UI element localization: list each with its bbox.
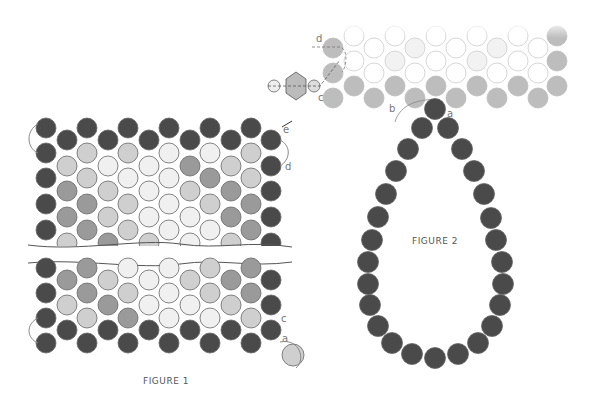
bead	[139, 320, 159, 340]
bead	[368, 207, 389, 228]
bead	[241, 220, 261, 240]
bead	[376, 184, 397, 205]
bead	[368, 316, 389, 337]
bead	[180, 156, 200, 176]
bead	[180, 270, 200, 290]
bead	[241, 194, 261, 214]
bead	[77, 168, 97, 188]
bead	[159, 308, 179, 328]
bead	[36, 258, 56, 278]
bead	[57, 320, 77, 340]
path-label: e	[283, 124, 289, 135]
bead	[98, 156, 118, 176]
bead	[36, 333, 56, 353]
bead	[118, 168, 138, 188]
bead	[482, 316, 503, 337]
bead	[159, 283, 179, 303]
bead	[481, 208, 502, 229]
bead	[446, 88, 466, 108]
bead	[139, 207, 159, 227]
bead	[57, 207, 77, 227]
bead	[77, 308, 97, 328]
bead	[36, 194, 56, 214]
bead	[241, 258, 261, 278]
bead	[98, 295, 118, 315]
path-label: a	[282, 333, 288, 344]
bead	[159, 118, 179, 138]
path-label: d	[285, 161, 291, 172]
bead	[159, 258, 179, 278]
bead	[360, 295, 381, 316]
bead	[98, 181, 118, 201]
bead	[221, 295, 241, 315]
bead	[77, 194, 97, 214]
bead	[323, 88, 343, 108]
bead	[36, 308, 56, 328]
bead	[180, 181, 200, 201]
bead	[425, 348, 446, 369]
bead	[200, 283, 220, 303]
bead	[221, 181, 241, 201]
bead	[547, 76, 567, 96]
bead	[362, 230, 383, 251]
bead	[474, 184, 495, 205]
bead	[200, 168, 220, 188]
bead	[77, 333, 97, 353]
bead	[438, 118, 459, 139]
bead	[139, 295, 159, 315]
path-label: d	[316, 33, 322, 44]
bead	[241, 333, 261, 353]
bead	[200, 258, 220, 278]
bead	[118, 258, 138, 278]
bead	[200, 118, 220, 138]
bead	[467, 76, 487, 96]
bead	[261, 295, 281, 315]
bead	[118, 283, 138, 303]
bead	[36, 118, 56, 138]
figure-1: edca	[20, 118, 304, 368]
bead	[118, 333, 138, 353]
bead	[139, 181, 159, 201]
bead	[221, 320, 241, 340]
figure-1-caption: FIGURE 1	[143, 376, 189, 386]
bead	[386, 161, 407, 182]
bead	[528, 88, 548, 108]
bead	[241, 118, 261, 138]
bead	[358, 252, 379, 273]
bead	[139, 156, 159, 176]
bead	[36, 220, 56, 240]
bead	[77, 118, 97, 138]
bead	[490, 295, 511, 316]
bead	[36, 143, 56, 163]
bead	[241, 168, 261, 188]
path-label: c	[318, 92, 324, 103]
bead	[200, 220, 220, 240]
bead	[468, 333, 489, 354]
bead	[221, 130, 241, 150]
bead	[241, 143, 261, 163]
figure-2: dcba	[268, 20, 570, 369]
bead	[261, 320, 281, 340]
bead	[57, 270, 77, 290]
bead	[398, 139, 419, 160]
bead	[221, 207, 241, 227]
bead	[118, 118, 138, 138]
bead	[159, 220, 179, 240]
bead	[405, 63, 425, 83]
path-label: b	[389, 103, 395, 114]
bead	[200, 143, 220, 163]
bead	[118, 143, 138, 163]
bead	[528, 63, 548, 83]
path-label: c	[281, 313, 287, 324]
figure-2-caption: FIGURE 2	[412, 236, 458, 246]
bead	[139, 130, 159, 150]
bead	[200, 194, 220, 214]
bead	[77, 143, 97, 163]
bead	[77, 220, 97, 240]
bead	[487, 63, 507, 83]
bead	[98, 207, 118, 227]
bead	[200, 308, 220, 328]
bead	[57, 181, 77, 201]
bead	[487, 88, 507, 108]
bead	[261, 270, 281, 290]
